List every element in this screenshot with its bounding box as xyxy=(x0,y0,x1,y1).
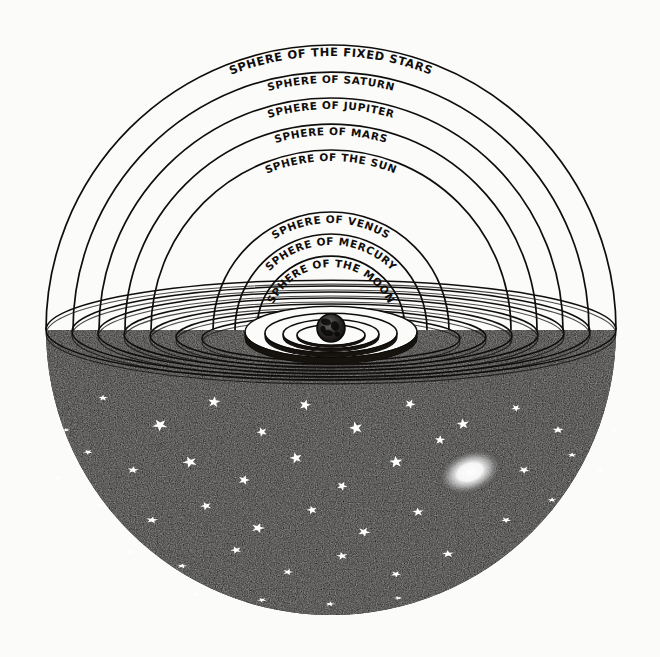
star xyxy=(95,503,105,508)
geocentric-cosmos-illustration: SPHERE OF THE FIXED STARSSPHERE OF SATUR… xyxy=(0,0,660,657)
star xyxy=(192,592,201,596)
star xyxy=(493,564,503,568)
earth-globe xyxy=(317,314,345,342)
sphere-label-sun: SPHERE OF THE SUN xyxy=(263,151,399,176)
star xyxy=(596,468,604,472)
star xyxy=(54,477,62,480)
sphere-arc-fixed-stars xyxy=(46,45,616,330)
star xyxy=(610,428,618,431)
diagram-canvas: SPHERE OF THE FIXED STARSSPHERE OF SATUR… xyxy=(0,0,660,657)
star xyxy=(458,586,466,590)
star xyxy=(125,550,134,554)
